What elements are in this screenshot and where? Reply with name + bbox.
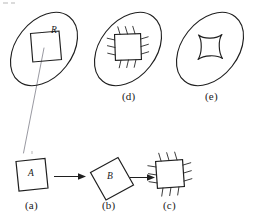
panel-label-d: (d): [122, 90, 135, 102]
label-element-b: B: [107, 171, 113, 181]
panel-label-c: (c): [163, 199, 176, 211]
label-element-a: A: [28, 168, 34, 178]
scan-speck: [11, 2, 15, 4]
scan-speck: [31, 151, 33, 154]
panel-label-a: (a): [25, 199, 38, 211]
label-region-r: R: [51, 25, 57, 35]
panel-label-b: (b): [102, 199, 115, 211]
scan-speck: [3, 2, 8, 4]
panel-label-e: (e): [205, 90, 218, 102]
figure-canvas: [0, 0, 256, 216]
